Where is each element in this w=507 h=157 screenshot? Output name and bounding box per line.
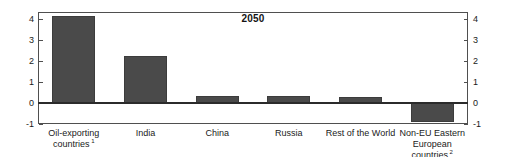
bar-chart: 2050 4 3 2 1 0 -1 4 3 2 1 0 -1 Oil-expor… xyxy=(0,0,507,157)
tick-mark-left-3 xyxy=(39,40,43,41)
bar-5 xyxy=(411,103,454,122)
x-label-3: Russia xyxy=(253,128,325,139)
plot-area xyxy=(38,12,468,124)
y-axis-right-tick-0: 0 xyxy=(473,99,478,108)
x-label-1: India xyxy=(110,128,182,139)
x-label-4: Rest of the World xyxy=(325,128,397,139)
tick-mark-left-4 xyxy=(39,19,43,20)
y-axis-left-tick-0: 0 xyxy=(29,99,34,108)
x-label-5: Non-EU EasternEuropean countries 2 xyxy=(396,128,468,157)
x-label-line1-0: Oil-exporting xyxy=(38,128,110,139)
y-axis-right-tick-3: 3 xyxy=(473,36,478,45)
tick-mark-left-1 xyxy=(39,82,43,83)
tick-mark-left-2 xyxy=(39,61,43,62)
x-label-line2-5: European countries 2 xyxy=(396,139,468,157)
bar-0 xyxy=(52,16,95,103)
y-axis-right-tick-2: 2 xyxy=(473,57,478,66)
y-axis-left-tick-neg1: -1 xyxy=(26,120,34,129)
x-label-footnote-5: 2 xyxy=(448,149,453,155)
tick-mark-right-3 xyxy=(464,40,468,41)
tick-mark-right-1 xyxy=(464,82,468,83)
x-label-line1-1: India xyxy=(110,128,182,139)
tick-mark-right-2 xyxy=(464,61,468,62)
x-label-line2-0: countries 1 xyxy=(38,139,110,150)
x-label-line1-5: Non-EU Eastern xyxy=(396,128,468,139)
y-axis-left-tick-4: 4 xyxy=(29,15,34,24)
y-axis-right-tick-4: 4 xyxy=(473,15,478,24)
y-axis-right-tick-1: 1 xyxy=(473,78,478,87)
y-axis-left-tick-1: 1 xyxy=(29,78,34,87)
bar-1 xyxy=(124,56,167,104)
x-label-0: Oil-exportingcountries 1 xyxy=(38,128,110,150)
tick-mark-right-4 xyxy=(464,19,468,20)
x-label-line1-2: China xyxy=(181,128,253,139)
x-label-line1-4: Rest of the World xyxy=(325,128,397,139)
zero-baseline xyxy=(38,102,468,104)
x-label-line1-3: Russia xyxy=(253,128,325,139)
y-axis-right-tick-neg1: -1 xyxy=(473,120,481,129)
y-axis-left-tick-2: 2 xyxy=(29,57,34,66)
x-label-2: China xyxy=(181,128,253,139)
tick-mark-left--1 xyxy=(39,124,43,125)
x-label-footnote-0: 1 xyxy=(90,138,95,144)
y-axis-left-tick-3: 3 xyxy=(29,36,34,45)
tick-mark-right--1 xyxy=(464,124,468,125)
